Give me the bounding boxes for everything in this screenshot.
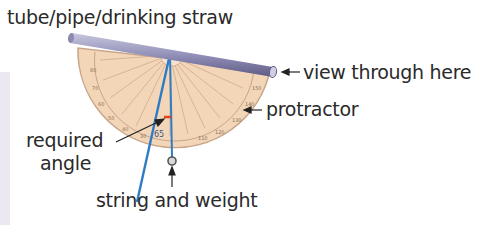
svg-text:30: 30	[140, 133, 146, 139]
svg-text:150: 150	[252, 85, 262, 91]
svg-text:140: 140	[245, 101, 255, 107]
svg-text:120: 120	[215, 129, 225, 135]
svg-text:70: 70	[92, 85, 98, 91]
view-through-label: view through here	[303, 63, 471, 82]
protractor-label: protractor	[266, 100, 358, 119]
tube-label: tube/pipe/drinking straw	[7, 8, 233, 27]
required-angle-label-2: angle	[40, 154, 91, 173]
svg-text:60: 60	[98, 101, 104, 107]
svg-text:40: 40	[122, 126, 128, 132]
string-weight-label: string and weight	[96, 191, 257, 210]
required-angle-label-1: required	[26, 131, 103, 150]
svg-text:50: 50	[108, 115, 114, 121]
svg-text:130: 130	[232, 117, 242, 123]
weight	[168, 157, 176, 165]
svg-text:110: 110	[198, 135, 208, 141]
svg-text:65: 65	[154, 130, 164, 139]
svg-text:80: 80	[90, 67, 96, 73]
